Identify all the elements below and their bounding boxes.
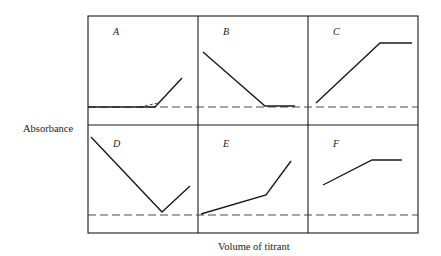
curve-d bbox=[91, 137, 190, 212]
panel-grid bbox=[88, 16, 418, 233]
titration-curves bbox=[88, 43, 412, 214]
panel-label-e: E bbox=[222, 138, 229, 149]
y-axis-label: Absorbance bbox=[23, 123, 73, 134]
curve-a bbox=[88, 78, 182, 107]
titration-curves-figure: ABCDEF Absorbance Volume of titrant bbox=[0, 0, 441, 256]
curve-c bbox=[316, 43, 412, 103]
x-axis-label: Volume of titrant bbox=[218, 241, 290, 252]
panel-label-a: A bbox=[112, 26, 120, 37]
curve-b bbox=[203, 52, 295, 106]
panel-label-d: D bbox=[112, 138, 121, 149]
panel-label-b: B bbox=[223, 26, 229, 37]
panel-labels: ABCDEF bbox=[112, 26, 340, 149]
curve-e bbox=[201, 161, 291, 214]
panel-label-f: F bbox=[332, 138, 340, 149]
panel-label-c: C bbox=[333, 26, 340, 37]
curve-f bbox=[323, 160, 402, 185]
